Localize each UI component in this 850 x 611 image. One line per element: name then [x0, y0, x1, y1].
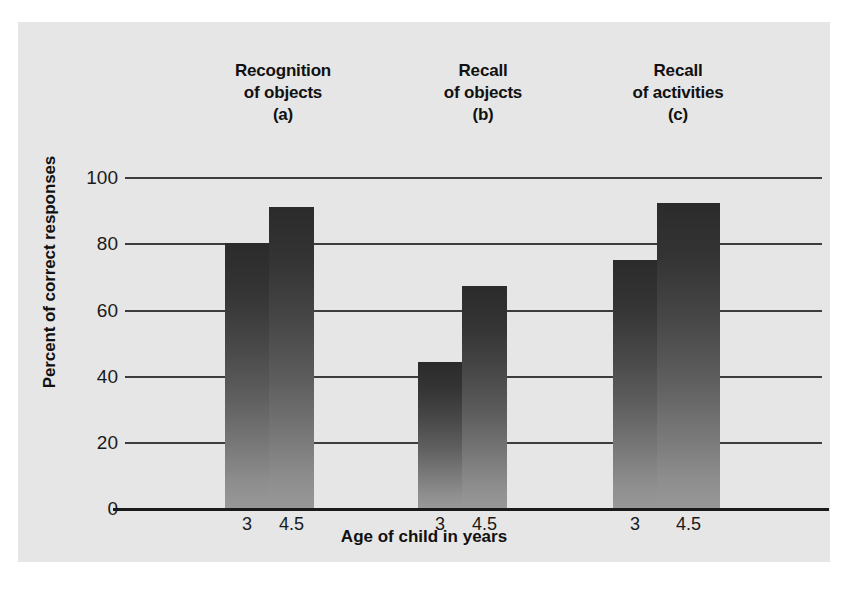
plot-area: Percent of correct responses 100 80 60 4… — [18, 22, 830, 562]
bar-a-3[interactable] — [225, 243, 269, 508]
x-axis-title: Age of child in years — [18, 527, 830, 547]
bar-b-45[interactable] — [462, 286, 507, 508]
bar-c-45[interactable] — [657, 203, 720, 508]
y-axis-title: Percent of correct responses — [40, 122, 60, 422]
y-tick-label-60: 60 — [58, 300, 118, 322]
gridline-100 — [125, 177, 822, 179]
gridline-0-baseline — [113, 508, 829, 511]
bar-c-3[interactable] — [613, 260, 657, 508]
y-tick-label-20: 20 — [58, 432, 118, 454]
y-tick-label-40: 40 — [58, 366, 118, 388]
y-tick-label-0: 0 — [58, 498, 118, 520]
y-tick-label-80: 80 — [58, 233, 118, 255]
bar-chart-figure: Recognition of objects (a) Recall of obj… — [18, 22, 830, 562]
bar-b-3[interactable] — [418, 362, 462, 508]
bar-a-45[interactable] — [269, 207, 314, 508]
y-tick-label-100: 100 — [58, 167, 118, 189]
